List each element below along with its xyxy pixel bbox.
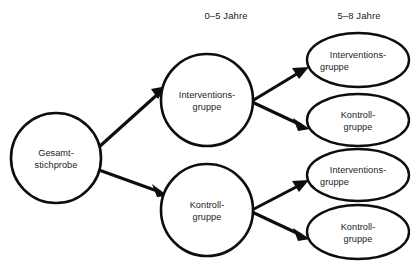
node-stage2-intervention-b[interactable]: Interventions- gruppe: [307, 149, 409, 201]
edge-line: [252, 72, 300, 101]
node-label-line1: Interventions-: [179, 90, 235, 100]
node-label-line1: Interventions-: [330, 50, 386, 60]
node-label-line1: Kontroll-: [341, 110, 376, 120]
arrowhead-icon: [292, 67, 309, 79]
edge-line: [99, 170, 160, 192]
node-label-line1: Kontroll-: [341, 222, 376, 232]
column-header-0-5-jahre: 0–5 Jahre: [204, 10, 247, 21]
flow-diagram-svg: 0–5 Jahre 5–8 Jahre: [0, 0, 418, 263]
edge-line: [252, 212, 301, 235]
node-circle: [161, 164, 253, 256]
edge-line: [252, 185, 300, 210]
column-headers: 0–5 Jahre 5–8 Jahre: [204, 10, 380, 21]
flow-diagram-canvas: 0–5 Jahre 5–8 Jahre: [0, 0, 418, 263]
edge-kontroll-to-intervention: [252, 180, 309, 210]
node-gesamtstichprobe[interactable]: Gesamt- stichprobe: [11, 113, 101, 203]
node-label-line2: gruppe: [320, 62, 349, 72]
node-stage2-intervention-a[interactable]: Interventions- gruppe: [307, 33, 409, 87]
node-stage1-kontroll[interactable]: Kontroll- gruppe: [161, 164, 253, 256]
edge-root-to-kontroll: [99, 170, 168, 197]
node-label-line2: gruppe: [193, 212, 222, 222]
node-label-line2: gruppe: [344, 122, 373, 132]
node-circle: [11, 113, 101, 203]
edge-line: [99, 93, 159, 147]
column-header-5-8-jahre: 5–8 Jahre: [337, 10, 380, 21]
node-label-line2: gruppe: [193, 102, 222, 112]
edge-root-to-intervention: [99, 86, 167, 147]
node-ellipse: [307, 149, 409, 201]
node-label-line2: gruppe: [320, 177, 349, 187]
edge-intervention-to-kontroll: [252, 102, 310, 131]
edge-intervention-to-intervention: [252, 67, 309, 101]
node-label-line1: Interventions-: [330, 165, 386, 175]
node-ellipse: [307, 94, 409, 146]
edge-kontroll-to-kontroll: [252, 212, 310, 241]
node-circle: [161, 54, 253, 146]
node-ellipse: [307, 33, 409, 87]
node-stage1-intervention[interactable]: Interventions- gruppe: [161, 54, 253, 146]
node-label-line2: stichprobe: [35, 160, 78, 170]
node-ellipse: [307, 205, 409, 259]
node-label-line2: gruppe: [344, 234, 373, 244]
node-stage2-kontroll-b[interactable]: Kontroll- gruppe: [307, 205, 409, 259]
edge-line: [252, 102, 301, 125]
arrowhead-icon: [292, 180, 309, 192]
node-label-line1: Gesamt-: [38, 148, 74, 158]
node-label-line1: Kontroll-: [190, 200, 225, 210]
node-stage2-kontroll-a[interactable]: Kontroll- gruppe: [307, 94, 409, 146]
